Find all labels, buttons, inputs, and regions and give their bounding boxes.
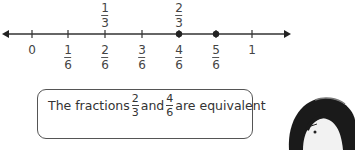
numerator: 3	[138, 44, 146, 56]
numerator: 2	[101, 44, 109, 56]
callout-text: The fractions 2 3 and 4 6 are equivalent	[48, 93, 266, 118]
label-one-third: 1 3	[101, 2, 109, 29]
denominator: 3	[175, 17, 183, 29]
right-arrow-icon	[284, 30, 291, 38]
callout-prefix: The fractions	[48, 98, 130, 113]
numerator: 1	[64, 44, 72, 56]
girl-character-illustration	[285, 90, 355, 150]
numerator: 4	[175, 44, 183, 56]
denominator: 6	[175, 59, 183, 71]
callout-fraction-two-thirds: 2 3	[132, 93, 139, 118]
denominator: 6	[166, 107, 173, 118]
label-five-sixths: 5 6	[212, 44, 220, 71]
denominator: 6	[101, 59, 109, 71]
denominator: 3	[101, 17, 109, 29]
label-two-sixths: 2 6	[101, 44, 109, 71]
numerator: 4	[166, 93, 173, 104]
number-line	[0, 0, 336, 70]
denominator: 6	[138, 59, 146, 71]
callout-fraction-four-sixths: 4 6	[166, 93, 173, 118]
callout-and: and	[141, 98, 165, 113]
numerator: 1	[101, 2, 109, 14]
denominator: 6	[212, 59, 220, 71]
label-zero: 0	[28, 44, 36, 56]
label-two-thirds: 2 3	[175, 2, 183, 29]
label-one-sixth: 1 6	[64, 44, 72, 71]
left-arrow-icon	[2, 30, 9, 38]
label-one: 1	[248, 44, 256, 56]
label-four-sixths: 4 6	[175, 44, 183, 71]
denominator: 3	[132, 107, 139, 118]
point-five-sixths	[213, 31, 219, 37]
point-four-sixths	[176, 31, 182, 37]
numerator: 2	[175, 2, 183, 14]
numerator: 5	[212, 44, 220, 56]
label-three-sixths: 3 6	[138, 44, 146, 71]
callout-suffix: are equivalent	[175, 98, 265, 113]
denominator: 6	[64, 59, 72, 71]
numerator: 2	[132, 93, 139, 104]
